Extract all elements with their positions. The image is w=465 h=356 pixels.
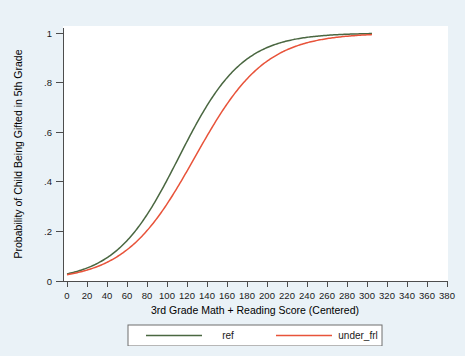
x-tick-label: 200 [259,290,275,301]
x-tick-label: 160 [219,290,235,301]
y-tick-label: .8 [44,77,52,88]
x-tick-label: 260 [319,290,335,301]
x-tick-label: 0 [64,290,69,301]
x-tick-label: 300 [359,290,375,301]
x-tick-label: 360 [419,290,435,301]
x-tick-label: 320 [379,290,395,301]
x-tick-label: 100 [159,290,175,301]
x-tick-label: 120 [179,290,195,301]
chart-figure: 0.2.4.6.81 02040608010012014016018020022… [8,6,457,346]
y-axis-title: Probability of Child Being Gifted in 5th… [12,49,24,258]
x-tick-label: 240 [299,290,315,301]
chart-legend[interactable]: refunder_frl [128,325,382,346]
x-tick-label: 340 [399,290,415,301]
x-tick-label: 220 [279,290,295,301]
x-tick-label: 80 [142,290,153,301]
x-tick-label: 180 [239,290,255,301]
y-tick-label: .4 [44,176,52,187]
x-tick-label: 20 [82,290,93,301]
x-tick-label: 380 [439,290,455,301]
plot-area-background [63,26,448,281]
x-tick-label: 40 [102,290,113,301]
y-tick-label: 0 [47,276,52,287]
legend-label-ref: ref [222,330,234,341]
y-tick-label: .6 [44,127,52,138]
x-tick-label: 60 [122,290,133,301]
y-tick-label: 1 [47,28,52,39]
chart-screenshot: 0.2.4.6.81 02040608010012014016018020022… [0,0,465,356]
y-tick-label: .2 [44,226,52,237]
logistic-probability-chart: 0.2.4.6.81 02040608010012014016018020022… [8,6,457,346]
x-tick-label: 280 [339,290,355,301]
x-tick-label: 140 [199,290,215,301]
legend-label-under_frl: under_frl [338,330,377,341]
x-axis-title: 3rd Grade Math + Reading Score (Centered… [151,304,359,316]
